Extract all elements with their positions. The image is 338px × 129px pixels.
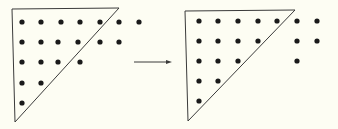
dot [77,19,82,24]
dot-triangle-diagram [0,0,338,129]
dot [215,38,220,43]
triangle-outline [12,8,119,122]
dot [196,18,201,23]
triangle-outline [185,10,295,121]
dot [255,38,260,43]
dot [314,18,319,23]
dot [19,19,24,24]
dot [38,39,43,44]
dot [136,19,141,24]
dot [19,80,24,85]
dot [196,58,201,63]
dot [38,80,43,85]
arrow-head-icon [166,60,172,64]
dot [294,38,299,43]
before-panel [12,8,142,122]
dot [38,19,43,24]
dot [75,39,80,44]
dot [274,18,279,23]
dot [314,38,319,43]
dot [196,38,201,43]
dot [19,59,24,64]
dot [215,18,220,23]
dot [255,18,260,23]
dot [19,100,24,105]
dot [77,59,82,64]
dot [235,18,240,23]
dot [55,59,60,64]
dot [55,39,60,44]
dot [215,58,220,63]
dot [58,19,63,24]
dot [294,18,299,23]
dot [196,78,201,83]
dot [97,39,102,44]
dot [38,59,43,64]
dot [235,58,240,63]
transformation-arrow [134,60,172,64]
dot [97,19,102,24]
dot [235,38,240,43]
dot [19,39,24,44]
dot [196,98,201,103]
dot [116,19,121,24]
dot [215,78,220,83]
dot [294,58,299,63]
after-panel [185,10,320,121]
dot [116,39,121,44]
